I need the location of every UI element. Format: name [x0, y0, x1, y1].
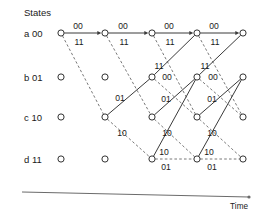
edge-output-label: 01 — [207, 94, 217, 104]
trellis-node-a2[interactable] — [149, 30, 155, 36]
trellis-node-a1[interactable] — [102, 30, 108, 36]
edge-output-label: 00 — [118, 21, 128, 31]
edge-arrowhead — [144, 31, 148, 35]
state-label-a: a 00 — [24, 28, 43, 39]
trellis-node-c4[interactable] — [240, 114, 246, 120]
page-title: States — [24, 7, 51, 18]
state-label-d: d 11 — [24, 154, 42, 165]
trellis-node-a4[interactable] — [240, 30, 246, 36]
edge-output-label: 10 — [117, 128, 127, 138]
trellis-canvas: 0011001101100011110001101001001111000110… — [0, 0, 273, 221]
trellis-nodes — [58, 30, 246, 162]
edge-output-label: 01 — [115, 93, 125, 103]
edge-arrowhead — [235, 31, 239, 35]
edge-output-label: 00 — [209, 21, 219, 31]
trellis-node-b3[interactable] — [194, 74, 200, 80]
trellis-edge-c1-b2 — [107, 79, 149, 115]
state-row-labels: a 00b 01c 10d 11 — [24, 28, 43, 165]
state-label-c: c 10 — [24, 112, 42, 123]
trellis-node-d0[interactable] — [58, 156, 64, 162]
trellis-edge-d3-b4 — [199, 80, 242, 156]
edge-output-label: 11 — [120, 37, 129, 47]
edge-output-label: 11 — [75, 37, 84, 47]
edge-output-label: 11 — [201, 61, 210, 71]
trellis-node-d3[interactable] — [194, 156, 200, 162]
edge-output-label: 11 — [211, 37, 220, 47]
edge-output-label: 00 — [73, 21, 83, 31]
edge-output-label: 01 — [207, 162, 217, 172]
edge-output-label: 10 — [159, 147, 169, 157]
edge-output-label: 10 — [204, 147, 214, 157]
trellis-edge-d2-b3 — [154, 80, 196, 156]
edge-output-label: 00 — [164, 21, 174, 31]
trellis-edge-a2-c3 — [154, 36, 196, 114]
edge-arrowhead — [97, 31, 101, 35]
trellis-edge-a0-c1 — [62, 36, 103, 114]
edge-arrowhead — [189, 31, 193, 35]
trellis-edge-a1-c2 — [107, 36, 151, 114]
trellis-node-d2[interactable] — [149, 156, 155, 162]
trellis-node-b4[interactable] — [240, 74, 246, 80]
trellis-node-c1[interactable] — [102, 114, 108, 120]
edge-output-label: 01 — [161, 94, 171, 104]
trellis-node-a0[interactable] — [58, 30, 64, 36]
time-axis — [22, 192, 251, 199]
edge-output-label: 11 — [155, 61, 164, 71]
edge-output-label: 10 — [207, 128, 217, 138]
trellis-node-b0[interactable] — [58, 74, 64, 80]
trellis-edge-a3-c4 — [199, 36, 242, 114]
time-axis-label: Time — [230, 202, 248, 211]
time-axis-line — [22, 192, 249, 197]
trellis-node-a3[interactable] — [194, 30, 200, 36]
edge-output-label: 11 — [166, 37, 175, 47]
trellis-diagram-figure: 0011001101100011110001101001001111000110… — [0, 0, 273, 221]
trellis-node-b2[interactable] — [149, 74, 155, 80]
trellis-node-c0[interactable] — [58, 114, 64, 120]
trellis-edge-c1-d2 — [107, 119, 149, 157]
trellis-edge-c3-b4 — [199, 79, 240, 115]
edge-output-label: 00 — [208, 72, 218, 82]
trellis-edge-labels: 0011001101100011110001101001001111000110… — [73, 21, 219, 172]
edge-output-label: 01 — [161, 162, 171, 172]
edge-output-label: 10 — [162, 128, 172, 138]
edge-output-label: 00 — [162, 72, 172, 82]
time-axis-arrow-icon — [247, 195, 250, 198]
trellis-node-c2[interactable] — [149, 114, 155, 120]
state-label-b: b 01 — [24, 72, 43, 83]
trellis-node-b1[interactable] — [102, 74, 108, 80]
trellis-node-d4[interactable] — [240, 156, 246, 162]
trellis-node-c3[interactable] — [194, 114, 200, 120]
trellis-node-d1[interactable] — [102, 156, 108, 162]
